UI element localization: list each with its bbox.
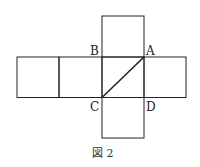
square-right [144,57,186,98]
square-bottom [102,98,144,139]
label-c: C [90,100,99,114]
square-left-2 [59,57,102,98]
cube-net-diagram: B A C D 図 2 [0,0,200,167]
label-d: D [146,100,156,114]
square-left-1 [17,57,59,98]
diagonal-ac [102,57,144,98]
square-top [102,16,144,57]
label-b: B [90,44,99,58]
label-a: A [145,44,155,58]
net-squares [17,16,186,138]
figure-caption: 図 2 [92,147,114,160]
